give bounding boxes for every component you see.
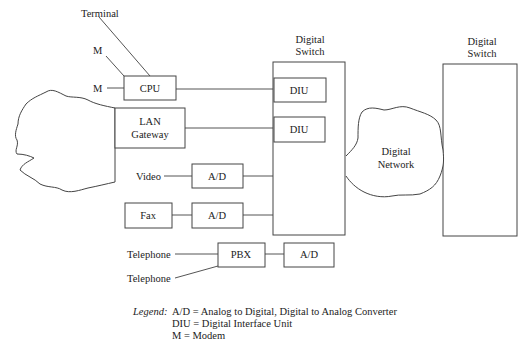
modem-top-line [106,56,124,76]
lan-gateway-box [115,108,185,148]
legend-entry: A/D = Analog to Digital, Digital to Anal… [172,306,397,317]
terminal-label: Terminal [81,8,119,19]
diu-1-label: DIU [290,85,309,96]
ad-video-label: A/D [208,171,227,182]
network-label-2: Network [378,159,415,170]
diu-2-label: DIU [290,124,309,135]
network-label-1: Digital [381,146,410,157]
ad-fax-label: A/D [208,210,227,221]
switch-left-label-1: Digital [295,34,324,45]
switch-right-label-1: Digital [467,36,496,47]
legend-entry: DIU = Digital Interface Unit [172,318,292,329]
lan-cloud [15,90,115,191]
ad-pbx-label: A/D [300,249,319,260]
network-diagram: Terminal M M CPU LAN Gateway Video A/D F… [0,0,529,347]
lan-label: LAN [139,116,161,127]
video-label: Video [136,171,161,182]
gateway-label: Gateway [131,129,169,140]
telephone-2-label: Telephone [127,273,171,284]
digital-switch-right [443,64,517,236]
modem-left-label: M [93,83,103,94]
telephone-2-line [175,266,218,278]
modem-top-label: M [93,45,103,56]
legend-title: Legend: [132,306,167,317]
legend-entry: M = Modem [172,330,225,341]
pbx-label: PBX [231,249,252,260]
telephone-1-label: Telephone [127,249,171,260]
switch-right-label-2: Switch [467,48,497,59]
terminal-line [99,17,150,76]
cpu-label: CPU [140,83,161,94]
switch-left-label-2: Switch [295,46,325,57]
fax-label: Fax [140,210,157,221]
